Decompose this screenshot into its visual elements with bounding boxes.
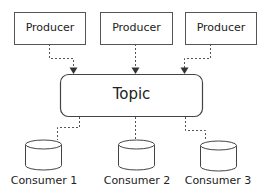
connector-topic-consumer-3: [186, 117, 206, 141]
producer-label-1: Producer: [14, 21, 86, 34]
connector-topic-consumer-1: [58, 117, 80, 140]
producer-label-3: Producer: [185, 21, 257, 34]
database-icon: [26, 140, 62, 170]
arrowhead-icon: [132, 68, 140, 75]
database-icon: [201, 141, 237, 171]
arrowhead-icon: [70, 68, 78, 75]
consumer-label-3: Consumer 3: [178, 174, 258, 187]
consumer-label-1: Consumer 1: [4, 174, 84, 187]
consumer-label-2: Consumer 2: [97, 174, 177, 187]
connector-producer-1-topic: [50, 44, 74, 68]
arrowhead-icon: [181, 68, 189, 75]
producer-label-2: Producer: [100, 21, 173, 34]
connector-producer-3-topic: [185, 44, 211, 68]
database-icon: [119, 140, 155, 170]
topic-label: Topic: [60, 85, 203, 103]
